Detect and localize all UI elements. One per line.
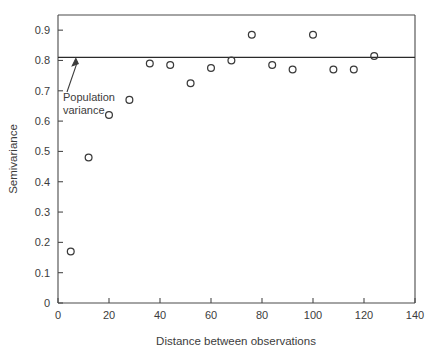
semivariogram-figure: 020406080100120140 00.10.20.30.40.50.60.… bbox=[0, 0, 446, 357]
data-point bbox=[106, 112, 113, 119]
x-tick-label: 60 bbox=[205, 309, 217, 321]
x-tick-label: 40 bbox=[154, 309, 166, 321]
data-point bbox=[248, 31, 255, 38]
y-tick-label: 0.5 bbox=[35, 145, 50, 157]
data-point bbox=[228, 57, 235, 64]
x-tick-label: 140 bbox=[406, 309, 424, 321]
data-point-markers bbox=[67, 31, 377, 255]
y-axis-title: Semivariance bbox=[7, 124, 19, 194]
x-axis-ticks bbox=[58, 298, 415, 303]
annotation-arrow-head bbox=[72, 58, 78, 65]
data-point bbox=[187, 80, 194, 87]
data-point bbox=[85, 154, 92, 161]
data-point bbox=[371, 53, 378, 60]
data-point bbox=[350, 66, 357, 73]
y-axis-tick-labels: 00.10.20.30.40.50.60.70.80.9 bbox=[35, 24, 50, 309]
x-tick-label: 100 bbox=[304, 309, 322, 321]
data-point bbox=[126, 96, 133, 103]
y-tick-label: 0.3 bbox=[35, 206, 50, 218]
x-tick-label: 80 bbox=[256, 309, 268, 321]
axes-frame bbox=[58, 15, 415, 303]
y-tick-label: 0.4 bbox=[35, 176, 50, 188]
x-tick-label: 20 bbox=[103, 309, 115, 321]
y-tick-label: 0.8 bbox=[35, 54, 50, 66]
scatter-plot-canvas: 020406080100120140 00.10.20.30.40.50.60.… bbox=[0, 0, 446, 357]
x-tick-label: 0 bbox=[55, 309, 61, 321]
population-variance-label-line1: Population bbox=[63, 91, 115, 103]
data-point bbox=[167, 62, 174, 69]
data-point bbox=[146, 60, 153, 67]
data-point bbox=[310, 31, 317, 38]
x-axis-title: Distance between observations bbox=[156, 335, 316, 347]
data-point bbox=[269, 62, 276, 69]
x-axis-tick-labels: 020406080100120140 bbox=[55, 309, 424, 321]
y-tick-label: 0.2 bbox=[35, 236, 50, 248]
data-point bbox=[289, 66, 296, 73]
population-variance-label-line2: variance bbox=[63, 104, 105, 116]
x-tick-label: 120 bbox=[355, 309, 373, 321]
data-point bbox=[330, 66, 337, 73]
data-point bbox=[208, 65, 215, 72]
y-tick-label: 0.6 bbox=[35, 115, 50, 127]
data-point bbox=[67, 248, 74, 255]
y-tick-label: 0.7 bbox=[35, 85, 50, 97]
y-tick-label: 0.1 bbox=[35, 267, 50, 279]
population-variance-arrow bbox=[67, 58, 78, 92]
y-axis-ticks bbox=[58, 30, 63, 303]
y-tick-label: 0 bbox=[44, 297, 50, 309]
y-tick-label: 0.9 bbox=[35, 24, 50, 36]
